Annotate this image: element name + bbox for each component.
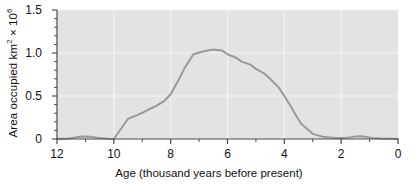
x-axis-tick-label: 0 (395, 147, 402, 161)
x-axis-tick-label: 12 (50, 147, 63, 161)
x-axis-tick-label: 8 (167, 147, 174, 161)
x-axis-tick-label: 2 (338, 147, 345, 161)
x-axis-tick-labels: 121086420 (0, 0, 418, 184)
x-axis-tick-label: 10 (107, 147, 120, 161)
x-axis-tick-label: 4 (281, 147, 288, 161)
chart-figure: Area occupied km2 × 106 00.51.01.5 12108… (0, 0, 418, 184)
x-axis-label: Age (thousand years before present) (0, 167, 418, 179)
x-axis-tick-label: 6 (224, 147, 231, 161)
